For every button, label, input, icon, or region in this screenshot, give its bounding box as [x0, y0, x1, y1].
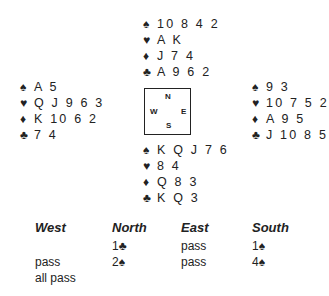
- diamond-icon: ♦: [252, 111, 266, 127]
- north-spades: ♠10 8 4 2: [143, 16, 220, 32]
- compass-south: S: [166, 121, 171, 130]
- cards: 9 3: [266, 80, 290, 94]
- bid-south: 4♠: [252, 254, 265, 270]
- compass-north: N: [165, 92, 171, 101]
- bid-east: pass: [181, 238, 206, 254]
- west-clubs: ♣7 4: [20, 127, 105, 143]
- cards: A 5: [34, 80, 59, 94]
- cards: 10 7 5 2: [266, 96, 329, 110]
- club-icon: ♣: [20, 127, 34, 143]
- south-spades: ♠K Q J 7 6: [143, 142, 229, 158]
- heart-icon: ♥: [143, 158, 157, 174]
- club-icon: ♣: [143, 64, 157, 80]
- north-diamonds: ♦J 7 4: [143, 48, 220, 64]
- east-spades: ♠9 3: [252, 79, 329, 95]
- cards: J 7 4: [157, 49, 195, 63]
- cards: A 9 5: [266, 112, 306, 126]
- south-hand: ♠K Q J 7 6 ♥8 4 ♦Q 8 3 ♣K Q 3: [143, 142, 229, 206]
- cards: A 9 6 2: [157, 65, 211, 79]
- west-spades: ♠A 5: [20, 79, 105, 95]
- compass-west: W: [150, 107, 158, 116]
- heart-icon: ♥: [20, 95, 34, 111]
- cards: 7 4: [34, 128, 58, 142]
- south-hearts: ♥8 4: [143, 158, 229, 174]
- compass-box: N W E S: [144, 88, 191, 135]
- north-hand: ♠10 8 4 2 ♥A K ♦J 7 4 ♣A 9 6 2: [143, 16, 220, 80]
- west-hearts: ♥Q J 9 6 3: [20, 95, 105, 111]
- diamond-icon: ♦: [20, 111, 34, 127]
- west-diamonds: ♦K 10 6 2: [20, 111, 105, 127]
- west-hand: ♠A 5 ♥Q J 9 6 3 ♦K 10 6 2 ♣7 4: [20, 79, 105, 143]
- heart-icon: ♥: [143, 32, 157, 48]
- cards: 8 4: [157, 159, 181, 173]
- heart-icon: ♥: [252, 95, 266, 111]
- spade-icon: ♠: [252, 79, 266, 95]
- spade-icon: ♠: [143, 142, 157, 158]
- cards: K Q 3: [157, 191, 200, 205]
- bid-north: 2♠: [112, 254, 125, 270]
- south-diamonds: ♦Q 8 3: [143, 174, 229, 190]
- north-clubs: ♣A 9 6 2: [143, 64, 220, 80]
- cards: Q J 9 6 3: [34, 96, 105, 110]
- header-south: South: [252, 220, 289, 236]
- cards: K Q J 7 6: [157, 143, 229, 157]
- spade-icon: ♠: [143, 16, 157, 32]
- bid-east: pass: [181, 254, 206, 270]
- compass-east: E: [181, 107, 186, 116]
- east-diamonds: ♦A 9 5: [252, 111, 329, 127]
- east-hand: ♠9 3 ♥10 7 5 2 ♦A 9 5 ♣J 10 8 5: [252, 79, 329, 143]
- cards: K 10 6 2: [34, 112, 98, 126]
- bid-north: 1♣: [112, 238, 127, 254]
- spade-icon: ♠: [20, 79, 34, 95]
- cards: A K: [157, 33, 183, 47]
- bid-west: all pass: [35, 270, 76, 286]
- south-clubs: ♣K Q 3: [143, 190, 229, 206]
- cards: 10 8 4 2: [157, 17, 220, 31]
- bid-south: 1♠: [252, 238, 265, 254]
- club-icon: ♣: [252, 127, 266, 143]
- club-icon: ♣: [143, 190, 157, 206]
- header-north: North: [112, 220, 147, 236]
- east-hearts: ♥10 7 5 2: [252, 95, 329, 111]
- cards: Q 8 3: [157, 175, 199, 189]
- north-hearts: ♥A K: [143, 32, 220, 48]
- diamond-icon: ♦: [143, 48, 157, 64]
- bid-west: pass: [35, 254, 60, 270]
- cards: J 10 8 5: [266, 128, 328, 142]
- header-west: West: [35, 220, 66, 236]
- east-clubs: ♣J 10 8 5: [252, 127, 329, 143]
- diamond-icon: ♦: [143, 174, 157, 190]
- header-east: East: [181, 220, 208, 236]
